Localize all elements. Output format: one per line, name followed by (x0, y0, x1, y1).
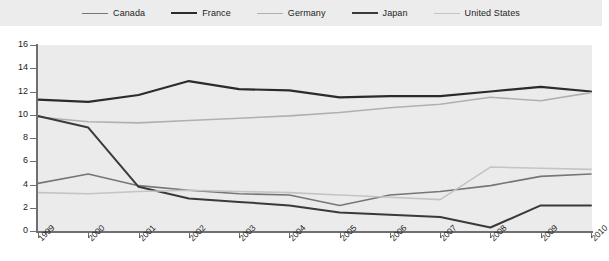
y-tick-mark (30, 115, 36, 116)
y-axis-tick: 16 (0, 45, 36, 46)
legend-swatch-icon (352, 12, 378, 14)
y-tick-mark (30, 138, 36, 139)
series-line-japan (38, 116, 591, 228)
y-tick-label: 10 (18, 109, 28, 119)
y-tick-label: 4 (23, 179, 28, 189)
y-axis-tick: 8 (0, 138, 36, 139)
legend-item-label: Germany (288, 8, 326, 18)
chart-legend: CanadaFranceGermanyJapanUnited States (0, 0, 602, 26)
y-axis-tick: 0 (0, 231, 36, 232)
y-tick-mark (30, 231, 36, 232)
y-axis-tick: 2 (0, 208, 36, 209)
legend-item-canada[interactable]: Canada (82, 8, 145, 18)
y-tick-mark (30, 208, 36, 209)
y-tick-label: 14 (18, 62, 28, 72)
y-tick-label: 16 (18, 39, 28, 49)
y-axis-line (36, 44, 38, 233)
legend-item-germany[interactable]: Germany (257, 8, 326, 18)
y-tick-mark (30, 185, 36, 186)
legend-swatch-icon (82, 13, 108, 14)
legend-swatch-icon (257, 13, 283, 14)
legend-swatch-icon (434, 13, 460, 14)
y-tick-label: 6 (23, 155, 28, 165)
y-axis-tick: 6 (0, 161, 36, 162)
y-axis-tick: 14 (0, 68, 36, 69)
y-tick-mark (30, 68, 36, 69)
y-tick-mark (30, 45, 36, 46)
y-axis-tick: 12 (0, 92, 36, 93)
y-tick-label: 12 (18, 86, 28, 96)
legend-item-label: Japan (383, 8, 408, 18)
series-svg (37, 45, 592, 231)
legend-item-label: United States (465, 8, 520, 18)
y-tick-mark (30, 92, 36, 93)
y-axis-tick: 4 (0, 185, 36, 186)
legend-item-france[interactable]: France (171, 8, 231, 18)
legend-item-united-states[interactable]: United States (434, 8, 520, 18)
legend-item-label: France (202, 8, 231, 18)
legend-item-japan[interactable]: Japan (352, 8, 408, 18)
x-axis-line (36, 231, 593, 233)
y-tick-mark (30, 161, 36, 162)
legend-swatch-icon (171, 12, 197, 14)
y-tick-label: 2 (23, 202, 28, 212)
y-axis-tick: 10 (0, 115, 36, 116)
series-line-united-states (38, 167, 591, 200)
y-tick-label: 8 (23, 132, 28, 142)
series-line-canada (38, 174, 591, 205)
legend-item-label: Canada (113, 8, 145, 18)
plot-area (37, 45, 592, 231)
x-tick-label: 2010 (589, 223, 609, 243)
y-tick-label: 0 (23, 225, 28, 235)
